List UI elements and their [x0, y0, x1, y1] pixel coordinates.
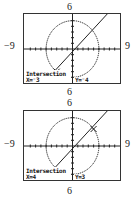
xmax-label: 9 — [125, 139, 130, 149]
graph-panel-2: 6 −9 9 6 Intersection X=4 Y=3 — [0, 97, 136, 195]
graph-panel-1: 6 −9 9 6 Intersection X=⁻3 Y=⁻4 — [0, 0, 136, 98]
x-value: X=⁻3 — [26, 77, 39, 83]
xmax-label: 9 — [125, 41, 130, 51]
ymax-label: 6 — [67, 2, 72, 12]
ymin-label: 6 — [67, 87, 72, 97]
y-value: Y=3 — [75, 174, 85, 180]
intersection-cursor — [91, 126, 97, 132]
calculator-screen: Intersection X=4 Y=3 — [23, 110, 121, 181]
ymin-label: 6 — [67, 186, 72, 196]
xmin-label: −9 — [4, 139, 15, 149]
xmin-label: −9 — [4, 41, 15, 51]
y-value: Y=⁻4 — [75, 77, 88, 83]
calculator-screen: Intersection X=⁻3 Y=⁻4 — [23, 13, 121, 84]
ymax-label: 6 — [67, 98, 72, 108]
x-value: X=4 — [26, 174, 36, 180]
